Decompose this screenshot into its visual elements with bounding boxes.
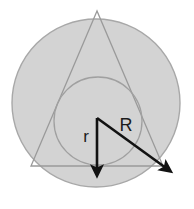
circumradius-label: R (120, 115, 133, 135)
geometry-figure: r R (0, 0, 194, 209)
geometry-diagram-canvas: r R (0, 0, 194, 209)
inradius-label: r (83, 127, 89, 146)
